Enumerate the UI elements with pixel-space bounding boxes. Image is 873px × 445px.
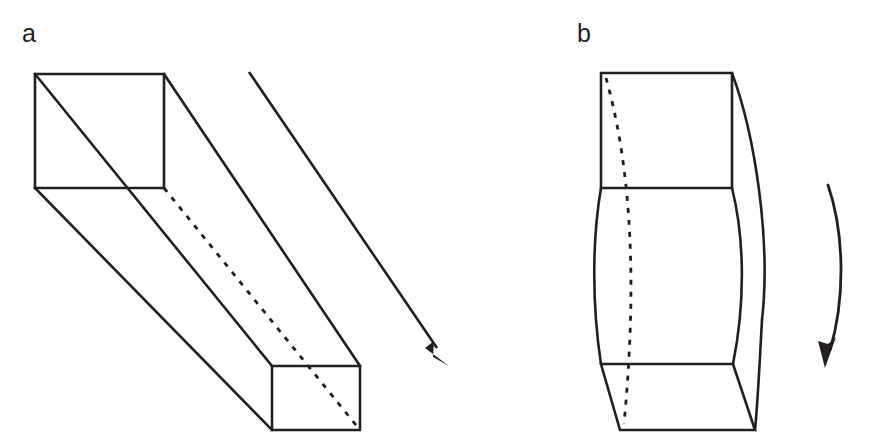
panel-b: b: [577, 19, 841, 430]
panel-a-arrow-shaft: [249, 72, 437, 348]
panel-a-edge-bottom-left-long: [35, 188, 272, 430]
panel-b-edge-front-left: [594, 188, 601, 364]
panel-b-edge-side-outer-lower: [755, 320, 762, 430]
panel-b-arrow-head: [818, 337, 836, 368]
figure-root: a b: [0, 0, 873, 445]
panel-a-edge-top-right-long: [164, 74, 360, 366]
panel-b-label: b: [577, 19, 591, 47]
panel-a-arrow-head: [425, 341, 449, 366]
panel-a: a: [22, 19, 449, 430]
panel-a-hidden-edge: [164, 188, 360, 430]
panel-b-hidden-edge: [606, 78, 631, 424]
panel-b-top-face: [601, 73, 732, 188]
panel-b-bottom-face: [601, 364, 755, 430]
panel-b-arrow-shaft: [828, 185, 841, 350]
panel-b-edge-front-right: [732, 188, 742, 364]
panel-a-edge-top-left-long: [35, 74, 272, 366]
figure-canvas: a b: [0, 0, 873, 445]
panel-a-label: a: [22, 19, 36, 47]
panel-a-direction-arrow: [249, 72, 449, 366]
panel-a-near-face: [35, 74, 164, 188]
panel-b-edge-side-outer-upper: [732, 73, 765, 320]
panel-b-rotation-arrow: [818, 185, 841, 368]
